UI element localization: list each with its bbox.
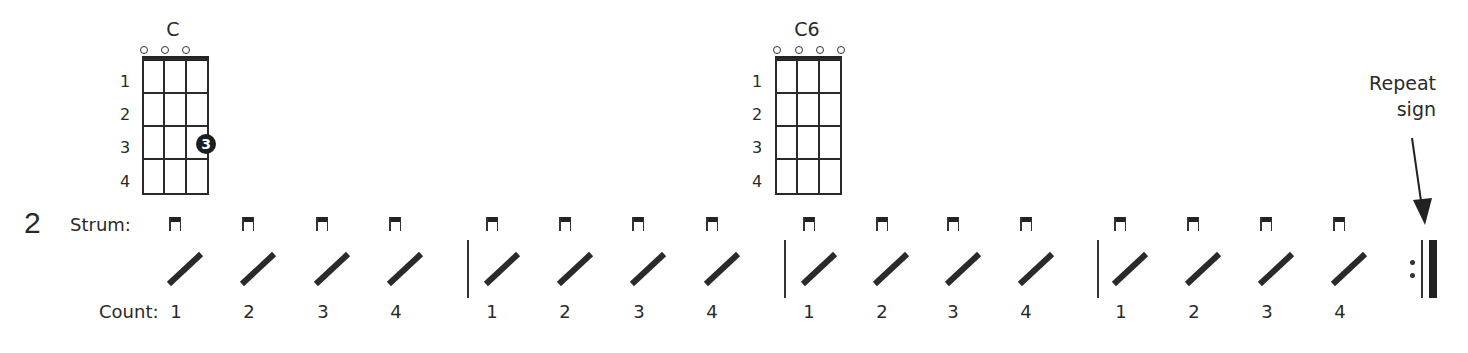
strum-label: Strum:: [70, 214, 131, 235]
open-string-icon: [140, 46, 148, 54]
beat-count: 4: [386, 301, 406, 322]
downstroke-icon: [706, 217, 718, 231]
fret-number: 3: [750, 138, 764, 157]
beat-count: 1: [799, 301, 819, 322]
open-string-icon: [795, 46, 803, 54]
open-string-icon: [816, 46, 824, 54]
beat-count: 2: [1184, 301, 1204, 322]
downstroke-icon: [486, 217, 498, 231]
fret-number: 3: [118, 138, 132, 157]
fret-number: 1: [750, 72, 764, 91]
slash-icon: [704, 252, 740, 286]
slash-icon: [801, 252, 837, 286]
beat-count: 4: [1330, 301, 1350, 322]
slash-icon: [387, 252, 423, 286]
bar-line: [467, 240, 469, 298]
annotation-line-1: Repeat: [1346, 70, 1436, 96]
slash-icon: [1112, 252, 1148, 286]
beat-count: 4: [702, 301, 722, 322]
fret-number: 2: [118, 105, 132, 124]
downstroke-icon: [1187, 217, 1199, 231]
fret-number: 2: [750, 105, 764, 124]
open-string-icon: [182, 46, 190, 54]
beat-count: 4: [1016, 301, 1036, 322]
bar-line: [1097, 240, 1099, 298]
finger-position-icon: 3: [196, 134, 216, 154]
downstroke-icon: [559, 217, 571, 231]
slash-icon: [240, 252, 276, 286]
chord-name: C6: [767, 18, 847, 40]
beat-count: 2: [239, 301, 259, 322]
slash-icon: [1185, 252, 1221, 286]
beat-count: 3: [943, 301, 963, 322]
slash-icon: [945, 252, 981, 286]
slash-icon: [167, 252, 203, 286]
downstroke-icon: [632, 217, 644, 231]
open-string-icon: [773, 46, 781, 54]
beat-count: 3: [629, 301, 649, 322]
downstroke-icon: [389, 217, 401, 231]
slash-icon: [557, 252, 593, 286]
downstroke-icon: [242, 217, 254, 231]
slash-icon: [1331, 252, 1367, 286]
bar-line: [784, 240, 786, 298]
slash-icon: [484, 252, 520, 286]
downstroke-icon: [803, 217, 815, 231]
annotation-line-2: sign: [1346, 96, 1436, 122]
downstroke-icon: [1260, 217, 1272, 231]
fret-number: 4: [118, 172, 132, 191]
downstroke-icon: [316, 217, 328, 231]
fretboard-grid: [775, 58, 842, 195]
count-label: Count:: [99, 301, 159, 322]
arrow-icon: [1400, 130, 1440, 230]
slash-icon: [1258, 252, 1294, 286]
downstroke-icon: [1020, 217, 1032, 231]
repeat-annotation: Repeat sign: [1346, 70, 1436, 122]
beat-count: 1: [166, 301, 186, 322]
downstroke-icon: [169, 217, 181, 231]
downstroke-icon: [947, 217, 959, 231]
beat-count: 1: [482, 301, 502, 322]
downstroke-icon: [1114, 217, 1126, 231]
beat-count: 2: [555, 301, 575, 322]
fret-number: 1: [118, 72, 132, 91]
beat-count: 3: [313, 301, 333, 322]
downstroke-icon: [876, 217, 888, 231]
fretboard-grid: [142, 58, 209, 195]
chord-name: C: [133, 18, 213, 40]
exercise-number: 2: [24, 206, 41, 240]
beat-count: 3: [1257, 301, 1277, 322]
open-string-icon: [161, 46, 169, 54]
slash-icon: [314, 252, 350, 286]
fret-number: 4: [750, 172, 764, 191]
open-string-icon: [837, 46, 845, 54]
downstroke-icon: [1333, 217, 1345, 231]
slash-icon: [1018, 252, 1054, 286]
slash-icon: [873, 252, 909, 286]
beat-count: 1: [1111, 301, 1131, 322]
beat-count: 2: [872, 301, 892, 322]
slash-icon: [630, 252, 666, 286]
